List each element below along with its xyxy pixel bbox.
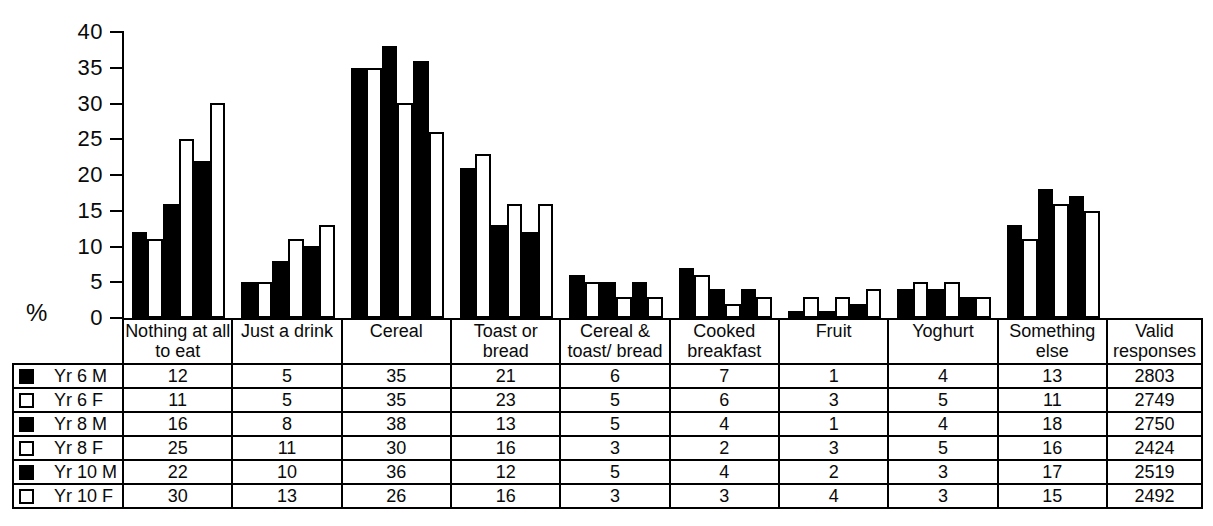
row-label-cell: Yr 6 M (13, 364, 123, 388)
bar (741, 289, 757, 318)
value-cell: 11 (232, 436, 341, 460)
y-tick-20: 20 (28, 164, 124, 186)
column-header-3: Cereal (342, 319, 451, 364)
bar (616, 297, 632, 318)
value-cell: 13 (451, 412, 560, 436)
value-cell: 3 (888, 460, 997, 484)
legend-swatch-icon (19, 489, 34, 504)
value-cell: 10 (232, 460, 341, 484)
y-tick-label: 15 (78, 200, 103, 222)
legend-swatch-icon (19, 417, 34, 432)
bar (1069, 196, 1085, 318)
bar (913, 282, 929, 318)
column-header-8: Yoghurt (888, 319, 997, 364)
bar (835, 297, 851, 318)
value-cell: 4 (670, 412, 779, 436)
column-header-4: Toast or bread (451, 319, 560, 364)
value-cell: 3 (560, 484, 669, 508)
bar (194, 161, 210, 318)
bar (132, 232, 148, 318)
y-tick-mark (110, 281, 124, 283)
y-tick-40: 40 (28, 21, 124, 43)
value-cell: 11 (123, 388, 232, 412)
bar-group-3 (343, 32, 452, 318)
row-label: Yr 10 M (54, 462, 117, 483)
table-row-yr-6-m: Yr 6 M12535216714132803 (13, 364, 1202, 388)
value-cell: 5 (560, 460, 669, 484)
bar (147, 239, 163, 318)
row-label: Yr 6 F (54, 390, 103, 411)
table-body: Nothing at all to eatJust a drinkCerealT… (13, 319, 1202, 508)
value-cell: 7 (670, 364, 779, 388)
bar (179, 139, 195, 318)
breakfast-survey-figure: % 4035302520151050 Nothing at all to eat… (0, 0, 1213, 526)
bar (788, 311, 804, 318)
bar-group-6 (671, 32, 780, 318)
bar (163, 204, 179, 318)
row-label-inner: Yr 8 F (14, 438, 122, 459)
bar (975, 297, 991, 318)
y-tick-mark (110, 210, 124, 212)
y-tick-mark (110, 246, 124, 248)
bar (272, 261, 288, 318)
value-cell: 26 (342, 484, 451, 508)
y-tick-mark (110, 67, 124, 69)
legend-swatch-icon (19, 393, 34, 408)
column-header-6: Cooked breakfast (670, 319, 779, 364)
value-cell: 3 (670, 484, 779, 508)
bar-group-2 (233, 32, 342, 318)
bar (819, 311, 835, 318)
value-cell: 36 (342, 460, 451, 484)
valid-responses-cell: 2749 (1107, 388, 1202, 412)
bar (538, 204, 554, 318)
valid-responses-cell: 2750 (1107, 412, 1202, 436)
y-tick-mark (110, 103, 124, 105)
bar (257, 282, 273, 318)
value-cell: 6 (670, 388, 779, 412)
valid-responses-cell: 2424 (1107, 436, 1202, 460)
y-tick-mark (110, 174, 124, 176)
bar (647, 297, 663, 318)
value-cell: 4 (888, 364, 997, 388)
value-cell: 13 (998, 364, 1107, 388)
bar (1007, 225, 1023, 318)
value-cell: 5 (560, 388, 669, 412)
bar (460, 168, 476, 318)
bar-group-7 (780, 32, 889, 318)
bar (1038, 189, 1054, 318)
y-tick-label: 25 (78, 128, 103, 150)
bar (850, 304, 866, 318)
bar (585, 282, 601, 318)
value-cell: 11 (998, 388, 1107, 412)
row-label-cell: Yr 6 F (13, 388, 123, 412)
value-cell: 4 (779, 484, 888, 508)
bar (897, 289, 913, 318)
table-row-yr-6-f: Yr 6 F11535235635112749 (13, 388, 1202, 412)
value-cell: 5 (888, 436, 997, 460)
bar (522, 232, 538, 318)
value-cell: 1 (779, 364, 888, 388)
y-tick-label: 35 (78, 57, 103, 79)
column-header-2: Just a drink (232, 319, 341, 364)
bar (382, 46, 398, 318)
y-tick-10: 10 (28, 236, 124, 258)
bar (507, 204, 523, 318)
y-tick-15: 15 (28, 200, 124, 222)
column-header-9: Something else (998, 319, 1107, 364)
value-cell: 16 (451, 484, 560, 508)
bar (569, 275, 585, 318)
value-cell: 38 (342, 412, 451, 436)
bar (1053, 204, 1069, 318)
y-tick-mark (110, 31, 124, 33)
bar (866, 289, 882, 318)
y-tick-5: 5 (28, 271, 124, 293)
column-header-5: Cereal & toast/ bread (560, 319, 669, 364)
bar (351, 68, 367, 318)
bar-group-8 (889, 32, 998, 318)
y-tick-label: 30 (78, 93, 103, 115)
bar-group-9 (999, 32, 1108, 318)
value-cell: 18 (998, 412, 1107, 436)
bar (288, 239, 304, 318)
value-cell: 21 (451, 364, 560, 388)
row-label: Yr 6 M (54, 366, 107, 387)
